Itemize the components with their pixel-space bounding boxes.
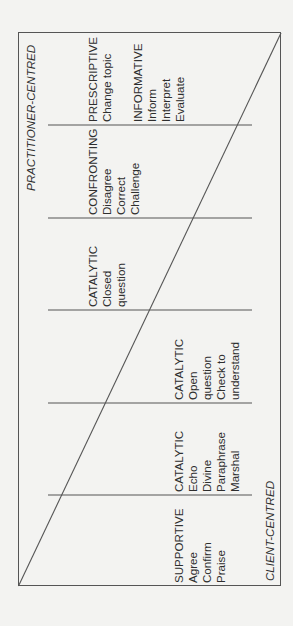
category-item: Praise [214,508,228,583]
category-title: CATALYTIC [172,431,186,492]
category-title: SUPPORTIVE [172,508,186,583]
cell-catalytic-reflective: CATALYTIC Echo Divine Paraphrase Marshal [172,431,242,492]
axis-label-client-centred: CLIENT-CENTRED [263,481,277,581]
spacer [114,37,131,122]
category-item: question [114,246,128,307]
category-item: Interpret [159,37,173,122]
category-item: Echo [186,431,200,492]
category-item: Paraphrase [214,431,228,492]
category-item: Inform [145,37,159,122]
cell-confronting: CONFRONTING Disagree Correct Challenge [86,129,142,215]
axis-label-practitioner-centred: PRACTITIONER-CENTRED [24,45,38,191]
cell-catalytic-closed: CATALYTIC Closed question [86,246,128,307]
category-item: Marshal [228,431,242,492]
category-item: question [200,339,214,400]
category-title: PRESCRIPTIVE [86,37,100,122]
cell-prescriptive-informative: PRESCRIPTIVE Change topic INFORMATIVE In… [86,37,187,122]
cell-supportive: SUPPORTIVE Agree Confirm Praise [172,508,228,583]
category-item: Confirm [200,508,214,583]
category-title: CATALYTIC [172,339,186,400]
cell-catalytic-open: CATALYTIC Open question Check to underst… [172,339,242,400]
category-item: Open [186,339,200,400]
category-item: Correct [114,129,128,215]
category-item: Agree [186,508,200,583]
category-title: CONFRONTING [86,129,100,215]
category-item: Change topic [100,37,114,122]
category-title: INFORMATIVE [131,37,145,122]
category-item: Divine [200,431,214,492]
category-item: Check to [214,339,228,400]
intervention-spectrum-diagram: PRACTITIONER-CENTRED CLIENT-CENTRED PRES… [0,0,293,626]
category-item: understand [228,339,242,400]
category-item: Evaluate [173,37,187,122]
category-item: Challenge [128,129,142,215]
category-item: Closed [100,246,114,307]
category-title: CATALYTIC [86,246,100,307]
category-item: Disagree [100,129,114,215]
